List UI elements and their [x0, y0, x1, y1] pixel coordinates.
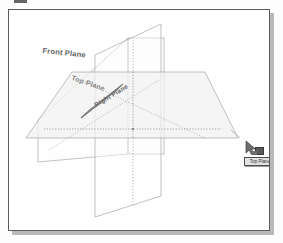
drag-badge-icon: [255, 147, 264, 155]
cursor-group: Top Plane: [245, 140, 270, 174]
figure-root: Front Plane Top Plane Right Plane Top Pl…: [0, 0, 283, 243]
scan-artifact-mark: [14, 0, 27, 3]
planes-origin-point: [132, 128, 134, 130]
plane-tooltip: Top Plane: [244, 157, 270, 166]
figure-frame: Front Plane Top Plane Right Plane Top Pl…: [8, 9, 270, 231]
planes-diagram: [9, 10, 268, 229]
top-plane-surface[interactable]: [26, 72, 238, 138]
